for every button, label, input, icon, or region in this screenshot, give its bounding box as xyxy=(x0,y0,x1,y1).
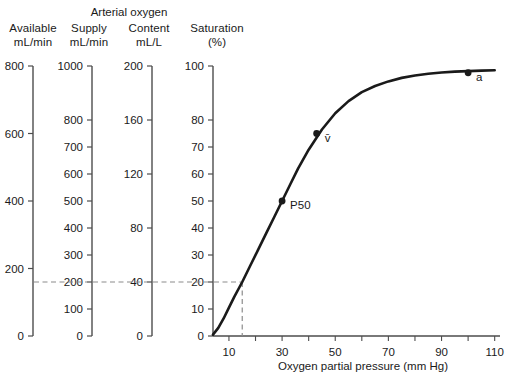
y-tick-label: 600 xyxy=(5,128,24,140)
y-tick-label: 800 xyxy=(64,114,83,126)
y-tick-label: 400 xyxy=(64,222,83,234)
y-tick-label: 100 xyxy=(185,60,204,72)
y-tick-label: 200 xyxy=(124,60,143,72)
chart-canvas: 0200400600800010020030040050060070080010… xyxy=(0,0,513,378)
y-tick-label: 40 xyxy=(191,222,204,234)
y-tick-label: 80 xyxy=(130,222,143,234)
data-point-label: a xyxy=(476,71,483,83)
y-tick-label: 50 xyxy=(191,195,204,207)
y-tick-label: 0 xyxy=(18,330,24,342)
data-point-label: v̄ xyxy=(325,132,331,144)
x-axis: 1030507090110 xyxy=(213,336,504,358)
y-tick-label: 120 xyxy=(124,168,143,180)
y-tick-label: 700 xyxy=(64,141,83,153)
x-tick-label: 110 xyxy=(486,346,504,358)
y-tick-label: 60 xyxy=(191,168,204,180)
oxygen-dissociation-figure: Arterial oxygen Available mL/min Supply … xyxy=(0,0,513,378)
y-tick-label: 80 xyxy=(191,114,204,126)
y-axis-supply: 01002003004005006007008001000 xyxy=(57,60,92,342)
y-tick-label: 1000 xyxy=(57,60,83,72)
x-tick-label: 70 xyxy=(382,346,395,358)
dissociation-curve xyxy=(213,70,495,334)
x-tick-label: 10 xyxy=(223,346,236,358)
x-tick-label: 30 xyxy=(276,346,289,358)
y-tick-label: 0 xyxy=(137,330,143,342)
y-tick-label: 10 xyxy=(191,303,204,315)
y-tick-label: 0 xyxy=(77,330,83,342)
y-axis-available: 0200400600800 xyxy=(5,60,33,342)
y-tick-label: 500 xyxy=(64,195,83,207)
data-point-mixed-venous: v̄ xyxy=(313,130,330,143)
y-tick-label: 160 xyxy=(124,114,143,126)
data-point-label: P50 xyxy=(290,199,310,211)
y-axis-content: 04080120160200 xyxy=(124,60,152,342)
x-axis-title: Oxygen partial pressure (mm Hg) xyxy=(213,360,513,372)
y-tick-label: 70 xyxy=(191,141,204,153)
y-tick-label: 600 xyxy=(64,168,83,180)
y-tick-label: 800 xyxy=(5,60,24,72)
y-axis-saturation: 01020304050607080100 xyxy=(185,60,213,342)
y-tick-label: 300 xyxy=(64,249,83,261)
y-tick-label: 0 xyxy=(198,330,204,342)
data-point-p50: P50 xyxy=(279,198,311,211)
x-tick-label: 90 xyxy=(435,346,448,358)
x-tick-label: 50 xyxy=(329,346,342,358)
y-tick-label: 100 xyxy=(64,303,83,315)
y-tick-label: 400 xyxy=(5,195,24,207)
y-tick-label: 30 xyxy=(191,249,204,261)
y-tick-label: 200 xyxy=(5,263,24,275)
